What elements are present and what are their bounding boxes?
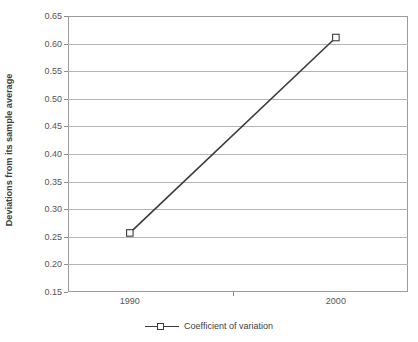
legend-item-coefficient-of-variation[interactable]: Coefficient of variation: [145, 321, 273, 331]
chart-container: Deviations from its sample average 0.650…: [0, 0, 418, 342]
x-axis-tick-marks: [0, 0, 418, 342]
legend-item-label: Coefficient of variation: [184, 321, 273, 331]
chart-legend: Coefficient of variation: [0, 316, 418, 336]
x-axis-tick-label: 2000: [326, 297, 346, 306]
x-axis-tick-labels: 19902000: [0, 297, 418, 311]
legend-marker-icon: [145, 321, 179, 331]
x-axis-tick-mark: [233, 292, 234, 296]
x-axis-tick-label: 1990: [120, 297, 140, 306]
